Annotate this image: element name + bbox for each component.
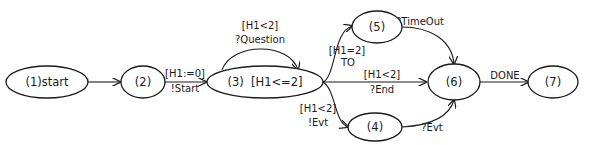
node-4-label: (4) xyxy=(367,120,383,134)
node-1-label: (1)start xyxy=(25,75,69,89)
node-2[interactable]: (2) xyxy=(121,66,165,98)
edge-4-6-action: ?Evt xyxy=(421,122,443,133)
node-7[interactable]: (7) xyxy=(528,66,578,98)
edge-5-6[interactable] xyxy=(402,27,454,64)
node-5[interactable]: (5) xyxy=(352,11,402,43)
node-6[interactable]: (6) xyxy=(428,64,480,100)
edge-5-6-action: ?TimeOut xyxy=(396,16,444,27)
node-4[interactable]: (4) xyxy=(348,113,402,141)
edge-2-3-action: !Start xyxy=(171,83,200,94)
edge-2-3-guard: [H1:=0] xyxy=(165,68,205,79)
node-3-label: (3) [H1<=2] xyxy=(227,75,302,89)
edge-3-5-action: TO xyxy=(340,57,355,68)
edge-3-4-action: !Evt xyxy=(308,117,328,128)
edge-3-4-guard: [H1<2] xyxy=(300,103,337,114)
node-6-label: (6) xyxy=(446,75,462,89)
edge-3-6-guard: [H1<2] xyxy=(364,69,401,80)
edge-3-6-action: ?End xyxy=(370,84,394,95)
node-5-label: (5) xyxy=(369,20,385,34)
edge-3-5-guard: [H1=2] xyxy=(329,45,366,56)
state-diagram: [H1:=0] !Start [H1<2] ?Question [H1=2] T… xyxy=(0,0,590,145)
node-7-label: (7) xyxy=(545,75,561,89)
node-3[interactable]: (3) [H1<=2] xyxy=(207,66,323,98)
edge-3-3-action: ?Question xyxy=(235,34,285,45)
node-2-label: (2) xyxy=(135,75,151,89)
edge-6-7-action: DONE xyxy=(490,70,519,81)
node-1-start[interactable]: (1)start xyxy=(6,66,88,98)
edge-3-3-guard: [H1<2] xyxy=(242,20,279,31)
